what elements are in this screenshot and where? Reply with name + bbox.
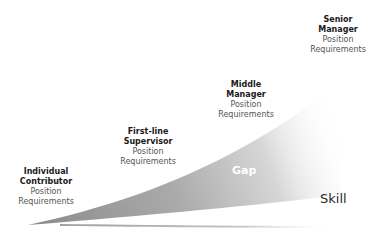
level-subtitle: Requirements — [120, 157, 176, 167]
level-title: Individual — [18, 167, 74, 177]
level-subtitle: Position — [120, 147, 176, 157]
level-title: Manager — [218, 90, 274, 100]
gap-label: Gap — [232, 164, 256, 177]
level-senior-manager: Senior Manager Position Requirements — [310, 15, 366, 55]
level-subtitle: Requirements — [310, 45, 366, 55]
level-title: Supervisor — [120, 137, 176, 147]
level-first-line-supervisor: First-line Supervisor Position Requireme… — [120, 127, 176, 167]
gap-area — [28, 82, 340, 225]
level-subtitle: Position — [310, 35, 366, 45]
level-subtitle: Position — [218, 100, 274, 110]
level-subtitle: Position — [18, 187, 74, 197]
level-subtitle: Requirements — [18, 197, 74, 207]
level-title: First-line — [120, 127, 176, 137]
level-title: Manager — [310, 25, 366, 35]
level-individual-contributor: Individual Contributor Position Requirem… — [18, 167, 74, 207]
level-subtitle: Requirements — [218, 110, 274, 120]
skill-label: Skill — [320, 191, 347, 206]
level-middle-manager: Middle Manager Position Requirements — [218, 80, 274, 120]
level-title: Senior — [310, 15, 366, 25]
level-title: Contributor — [18, 177, 74, 187]
level-title: Middle — [218, 80, 274, 90]
skill-line — [60, 224, 330, 228]
skill-gap-diagram: Individual Contributor Position Requirem… — [0, 0, 383, 236]
